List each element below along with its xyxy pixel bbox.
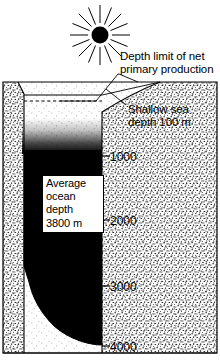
annotation-shallow-sea: Shallow sea depth 100 m xyxy=(128,103,191,129)
annotation-average-ocean-depth: Average ocean depth 3800 m xyxy=(42,175,104,233)
annotation-euphotic-limit: Depth limit of net primary production xyxy=(120,50,213,76)
depth-tick-label-2000: 2000 xyxy=(110,214,137,228)
depth-tick-label-4000: 4000 xyxy=(110,340,137,354)
depth-tick-label-1000: 1000 xyxy=(110,150,137,164)
depth-tick-label-3000: 3000 xyxy=(110,280,137,294)
ocean-depth-diagram: Depth limit of net primary production Sh… xyxy=(0,0,220,361)
